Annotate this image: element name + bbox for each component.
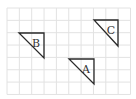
grid-lines: [7, 8, 131, 94]
triangle-c-label: C: [107, 24, 115, 37]
grid-diagram: A B C: [0, 0, 136, 99]
triangle-b-label: B: [32, 37, 40, 50]
triangle-a-label: A: [81, 63, 91, 76]
